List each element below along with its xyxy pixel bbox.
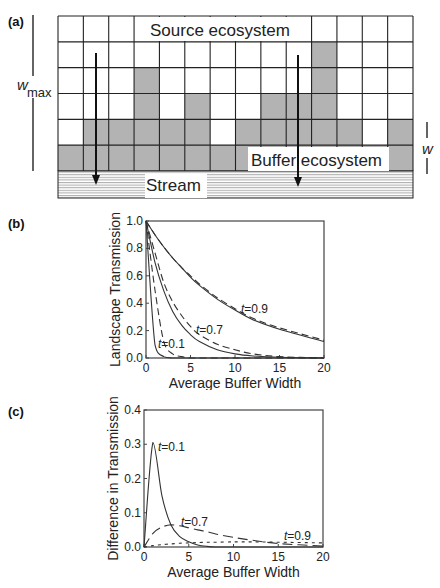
w-label: w (422, 140, 434, 157)
x-tick-label: 5 (185, 550, 192, 564)
buffer-column (185, 94, 210, 172)
series-line (146, 221, 324, 340)
source-ecosystem-label: Source ecosystem (150, 21, 290, 40)
y-tick-label: 0.4 (126, 296, 143, 310)
panel-a-diagram: Source ecosystem Buffer ecosystem Stream… (0, 0, 440, 205)
x-tick-label: 20 (317, 361, 331, 375)
curve-annotation: t=0.9 (284, 529, 311, 543)
chart-difference-transmission: 051015200.00.10.20.30.4Average Buffer Wi… (0, 390, 440, 588)
x-tick-label: 20 (316, 550, 330, 564)
x-tick-label: 10 (227, 550, 241, 564)
y-tick-label: 1.0 (126, 214, 143, 228)
x-tick-label: 0 (141, 550, 148, 564)
x-axis-label: Average Buffer Width (169, 375, 302, 390)
buffer-ecosystem-label: Buffer ecosystem (251, 151, 382, 170)
y-tick-label: 0.0 (126, 351, 143, 365)
x-tick-label: 0 (143, 361, 150, 375)
y-tick-label: 0.8 (126, 241, 143, 255)
stream-label: Stream (146, 176, 201, 195)
plot-frame (144, 410, 323, 547)
curve-annotation: t=0.7 (196, 323, 223, 337)
x-tick-label: 5 (187, 361, 194, 375)
y-tick-label: 0.0 (124, 540, 141, 554)
curve-annotation: t=0.1 (158, 337, 185, 351)
y-axis-label: Difference in Transmission (105, 396, 121, 561)
chart-landscape-transmission: 051015200.00.20.40.60.81.0Average Buffer… (0, 200, 440, 390)
x-axis-label: Average Buffer Width (167, 564, 300, 580)
x-tick-label: 10 (228, 361, 242, 375)
x-tick-label: 15 (273, 361, 287, 375)
series-line (146, 221, 324, 342)
buffer-column (58, 145, 83, 171)
y-tick-label: 0.2 (124, 472, 141, 486)
curve-annotation: t=0.1 (158, 440, 185, 454)
wmax-subscript: max (27, 85, 52, 100)
y-tick-label: 0.4 (124, 403, 141, 417)
y-tick-label: 0.2 (126, 324, 143, 338)
y-tick-label: 0.1 (124, 506, 141, 520)
curve-annotation: t=0.9 (241, 302, 268, 316)
curve-annotation: t=0.7 (181, 515, 208, 529)
buffer-column (210, 145, 235, 171)
stream-area (58, 171, 413, 198)
y-tick-label: 0.3 (124, 437, 141, 451)
y-axis-label: Landscape Transmission (107, 212, 123, 367)
x-tick-label: 15 (272, 550, 286, 564)
y-tick-label: 0.6 (126, 269, 143, 283)
